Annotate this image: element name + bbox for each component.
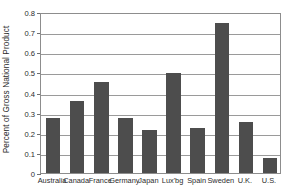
bar[interactable] xyxy=(142,130,157,173)
x-axis-tick-label: Spain xyxy=(187,176,206,185)
bar[interactable] xyxy=(215,23,230,173)
bar[interactable] xyxy=(94,82,109,173)
y-axis-tick-label: 0.1 xyxy=(24,149,35,158)
x-axis-tick-label: U.K. xyxy=(238,176,252,185)
y-axis-tick-mark xyxy=(37,174,41,175)
y-axis-tick-label: 0.4 xyxy=(24,89,35,98)
bar[interactable] xyxy=(166,73,181,173)
plot-area xyxy=(40,13,281,174)
x-axis-tick-label: Germany xyxy=(109,176,139,185)
x-axis-tick-label: Japan xyxy=(138,176,158,185)
bar-chart: Percent of Gross National Product 0.80.7… xyxy=(0,0,287,193)
x-axis-tick-label: Lux'bg xyxy=(162,176,184,185)
x-axis-tick-label: Canada xyxy=(63,176,89,185)
y-axis-tick-label: 0.5 xyxy=(24,69,35,78)
bar[interactable] xyxy=(118,118,133,173)
bar[interactable] xyxy=(239,122,254,173)
bar[interactable] xyxy=(70,101,85,173)
y-axis-tick-label: 0.6 xyxy=(24,49,35,58)
y-axis-tick-labels: 0.80.70.60.50.40.30.20.10 xyxy=(14,0,38,193)
bar[interactable] xyxy=(263,158,278,173)
y-axis-tick-label: 0.2 xyxy=(24,129,35,138)
bar[interactable] xyxy=(190,128,205,173)
y-axis-tick-label: 0.3 xyxy=(24,109,35,118)
bars-group xyxy=(41,14,280,173)
y-axis-tick-label: 0.8 xyxy=(24,9,35,18)
bar[interactable] xyxy=(46,118,61,173)
x-axis-tick-label: Australia xyxy=(38,176,67,185)
y-axis-tick-label: 0 xyxy=(31,170,35,179)
y-axis-tick-label: 0.7 xyxy=(24,29,35,38)
y-axis-title: Percent of Gross National Product xyxy=(0,0,14,178)
y-axis-title-label: Percent of Gross National Product xyxy=(3,25,12,153)
x-axis-tick-label: U.S. xyxy=(262,176,276,185)
x-axis-tick-labels: AustraliaCanadaFranceGermanyJapanLux'bgS… xyxy=(40,176,281,190)
x-axis-tick-label: Sweden xyxy=(207,176,234,185)
